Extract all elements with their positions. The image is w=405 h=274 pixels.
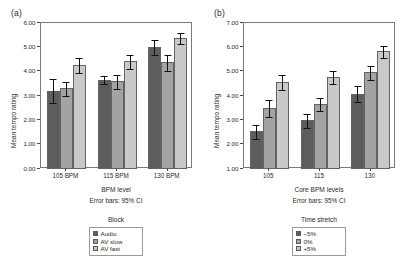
error-bar — [304, 114, 311, 129]
y-tick-label: 5.00 — [226, 67, 238, 74]
bar-slot — [111, 23, 124, 169]
bar--5-[interactable] — [301, 120, 314, 169]
bar-slot — [377, 23, 390, 169]
x-tick-label: 105 BPM — [40, 172, 91, 179]
x-tick: 115 BPM — [91, 168, 142, 182]
x-tick-label: 115 BPM — [91, 172, 142, 179]
bar--5-[interactable] — [351, 94, 364, 169]
bar-av-slow[interactable] — [60, 88, 73, 169]
panel-a-bars — [41, 23, 193, 169]
error-bar — [380, 46, 387, 58]
x-tick-mark — [268, 168, 269, 171]
bar-audio[interactable] — [98, 80, 111, 169]
error-bar — [266, 100, 273, 118]
x-tick: 115 — [294, 168, 345, 182]
x-tick: 105 BPM — [40, 168, 91, 182]
bar-slot — [47, 23, 60, 169]
error-bar — [330, 71, 337, 85]
panel-b-x-axis-ticks: 105115130 — [243, 168, 395, 182]
panel-b-error-note: Error bars: 95% CI — [243, 197, 395, 204]
bar-slot — [73, 23, 86, 169]
x-tick-mark — [167, 168, 168, 171]
bar-group — [92, 23, 143, 169]
legend-item[interactable]: Audio — [93, 230, 139, 238]
legend-item[interactable]: AV slow — [93, 238, 139, 246]
x-tick-mark — [65, 168, 66, 171]
legend-swatch-icon — [296, 239, 301, 244]
panel-a-y-axis: 0.001.002.003.004.005.006.00 — [0, 22, 40, 168]
y-tick-label: 6.00 — [23, 18, 35, 25]
x-tick-label: 130 — [344, 172, 395, 179]
bar-0-[interactable] — [263, 108, 276, 169]
panel-a-x-axis-ticks: 105 BPM115 BPM130 BPM — [40, 168, 192, 182]
panel-b-y-axis: 1.002.003.004.005.006.007.00 — [203, 22, 243, 168]
y-tick-label: 3.00 — [23, 91, 35, 98]
panel-b-legend-title: Time stretch — [243, 216, 395, 223]
x-tick-label: 130 BPM — [141, 172, 192, 179]
x-tick: 130 — [344, 168, 395, 182]
legend-label: AV fast — [101, 245, 121, 253]
y-tick-label: 1.00 — [226, 164, 238, 171]
bar-av-fast[interactable] — [73, 65, 86, 169]
bar-slot — [314, 23, 327, 169]
error-bar — [164, 55, 171, 72]
legend-label: Audio — [101, 230, 117, 238]
error-bar — [367, 66, 374, 81]
bar-group — [41, 23, 92, 169]
bar--5-[interactable] — [327, 77, 340, 169]
error-bar — [279, 75, 286, 91]
x-tick-label: 115 — [294, 172, 345, 179]
legend-item[interactable]: –5% — [296, 230, 342, 238]
bar-av-fast[interactable] — [174, 38, 187, 169]
panel-b-bars — [244, 23, 396, 169]
legend-swatch-icon — [93, 231, 98, 236]
legend-label: +5% — [304, 245, 317, 253]
legend-label: AV slow — [101, 238, 123, 246]
error-bar — [63, 82, 70, 97]
bar--5-[interactable] — [276, 82, 289, 169]
bar-slot — [364, 23, 377, 169]
legend-swatch-icon — [296, 246, 301, 251]
panel-b-tag: (b) — [214, 8, 225, 18]
bar--5-[interactable] — [250, 131, 263, 169]
bar-0-[interactable] — [364, 72, 377, 169]
y-tick-label: 7.00 — [226, 18, 238, 25]
bar-slot — [250, 23, 263, 169]
bar-audio[interactable] — [47, 91, 60, 169]
panel-b: (b) Mean tempo rating 1.002.003.004.005.… — [203, 0, 405, 274]
legend-swatch-icon — [93, 239, 98, 244]
bar-av-slow[interactable] — [161, 62, 174, 169]
legend-swatch-icon — [93, 246, 98, 251]
x-tick-mark — [370, 168, 371, 171]
bar-slot — [174, 23, 187, 169]
panel-b-plot-area — [243, 22, 395, 168]
x-tick: 130 BPM — [141, 168, 192, 182]
legend-swatch-icon — [296, 231, 301, 236]
bar--5-[interactable] — [377, 51, 390, 169]
error-bar — [76, 58, 83, 74]
legend-item[interactable]: 0% — [296, 238, 342, 246]
bar-group — [142, 23, 193, 169]
y-tick-label: 4.00 — [226, 91, 238, 98]
error-bar — [177, 33, 184, 46]
panel-b-legend: –5%0%+5% — [292, 227, 346, 256]
bar-av-slow[interactable] — [111, 81, 124, 169]
error-bar — [114, 75, 121, 90]
legend-item[interactable]: +5% — [296, 245, 342, 253]
bar-slot — [301, 23, 314, 169]
y-tick-label: 6.00 — [226, 42, 238, 49]
panel-a-x-axis-label: BPM level — [40, 186, 192, 193]
panel-a-legend-title: Block — [40, 216, 192, 223]
bar-slot — [148, 23, 161, 169]
y-tick-label: 5.00 — [23, 42, 35, 49]
bar-av-fast[interactable] — [124, 61, 137, 169]
panel-a-plot-area — [40, 22, 192, 168]
legend-item[interactable]: AV fast — [93, 245, 139, 253]
bar-slot — [263, 23, 276, 169]
bar-audio[interactable] — [148, 47, 161, 169]
panel-b-x-axis-label: Core BPM levels — [243, 186, 395, 193]
y-tick-label: 4.00 — [23, 67, 35, 74]
bar-0-[interactable] — [314, 104, 327, 169]
bar-slot — [351, 23, 364, 169]
bar-group — [244, 23, 295, 169]
